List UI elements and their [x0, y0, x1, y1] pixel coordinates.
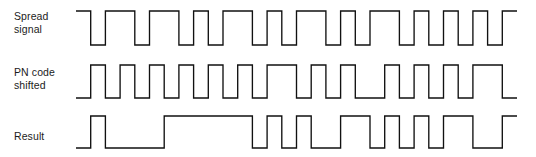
waveform-path-spread-signal — [70, 0, 536, 55]
waveform-path-pn-code-shifted — [70, 52, 536, 106]
waveform-path-result — [70, 104, 536, 157]
waveform-row-pn-code-shifted: PN code shifted — [0, 52, 536, 106]
signal-trace — [76, 65, 517, 98]
signal-trace — [76, 11, 517, 45]
waveform-row-spread-signal: Spread signal — [0, 0, 536, 55]
waveform-row-result: Result — [0, 104, 536, 157]
signal-trace — [76, 116, 517, 148]
row-label-result: Result — [14, 130, 44, 143]
waveform-plot-pn-code-shifted — [70, 52, 536, 106]
waveform-figure: Spread signal PN code shifted Result — [0, 0, 536, 157]
row-label-pn-code-shifted: PN code shifted — [14, 66, 55, 92]
waveform-plot-spread-signal — [70, 0, 536, 55]
row-label-spread-signal: Spread signal — [14, 10, 48, 36]
waveform-plot-result — [70, 104, 536, 157]
